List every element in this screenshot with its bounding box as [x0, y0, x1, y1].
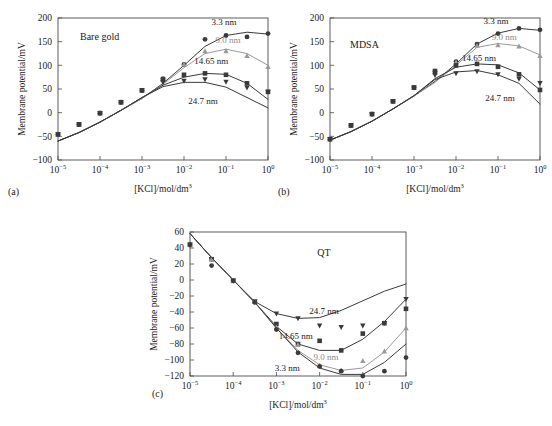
- panel-title: Bare gold: [80, 31, 119, 42]
- data-point: [516, 77, 521, 82]
- x-tick-label: 10−1: [490, 163, 506, 175]
- y-tick-label: −100: [164, 355, 184, 365]
- data-point: [403, 325, 408, 330]
- figure-container: −100−5005010015020010−510−410−310−210−11…: [0, 0, 552, 426]
- series-label: 24.7 nm: [188, 96, 218, 106]
- y-tick-label: −20: [169, 291, 184, 301]
- panel-b: −100−5005010015020010−510−410−310−210−11…: [272, 0, 552, 210]
- y-tick-label: 100: [310, 61, 325, 71]
- data-point: [296, 350, 301, 355]
- y-tick-label: −60: [169, 323, 184, 333]
- data-point: [339, 325, 344, 330]
- data-point: [202, 48, 207, 53]
- panel-c-letter: (c): [152, 388, 163, 399]
- panel-a-plot: −100−5005010015020010−510−410−310−210−11…: [0, 0, 290, 210]
- data-point: [339, 369, 344, 374]
- data-point: [245, 35, 250, 40]
- x-tick-label: 10−2: [448, 163, 464, 175]
- y-tick-label: −80: [169, 339, 184, 349]
- data-point: [224, 73, 229, 78]
- y-tick-label: 0: [179, 275, 184, 285]
- y-tick-label: −100: [304, 155, 324, 165]
- y-tick-label: 40: [175, 243, 185, 253]
- x-axis-title: [KCl]/mol/dm3: [269, 398, 327, 410]
- data-point: [474, 69, 479, 74]
- x-tick-label: 10−2: [176, 163, 192, 175]
- y-tick-label: −40: [169, 307, 184, 317]
- y-tick-label: 60: [175, 227, 185, 237]
- data-point: [360, 358, 365, 363]
- series-label: 14.65 nm: [462, 53, 496, 63]
- panel-c-plot: −120−100−80−60−40−20020406010−510−410−31…: [128, 212, 428, 426]
- data-point: [360, 374, 365, 379]
- data-point: [266, 31, 271, 36]
- data-point: [382, 348, 387, 353]
- x-tick-label: 10−4: [92, 163, 109, 175]
- data-point: [496, 64, 501, 69]
- data-point: [252, 300, 257, 305]
- data-point: [339, 348, 344, 353]
- data-point: [231, 278, 236, 283]
- y-tick-label: 50: [315, 84, 325, 94]
- data-point: [404, 307, 409, 312]
- data-point: [404, 355, 409, 360]
- y-axis-title: Membrane potential/mV: [149, 257, 159, 351]
- y-axis-title: Membrane potential/mV: [17, 42, 27, 136]
- data-point: [223, 80, 228, 85]
- series-label: 24.7 nm: [485, 93, 515, 103]
- y-tick-label: −50: [37, 132, 52, 142]
- y-tick-label: −100: [32, 155, 52, 165]
- series-label: 3.3 nm: [275, 363, 300, 373]
- x-axis-title: [KCl]/mol/dm3: [134, 182, 192, 194]
- data-point: [433, 69, 438, 74]
- series-label: 24.7 nm: [309, 306, 339, 316]
- data-point: [495, 42, 500, 47]
- x-tick-label: 10−4: [225, 379, 242, 391]
- y-tick-label: 150: [310, 37, 325, 47]
- data-point: [209, 263, 214, 268]
- data-point: [188, 242, 193, 247]
- panel-c: −120−100−80−60−40−20020406010−510−410−31…: [128, 212, 428, 426]
- panel-a-letter: (a): [8, 186, 19, 197]
- series-curve: [330, 44, 540, 141]
- data-point: [202, 77, 207, 82]
- y-axis-title: Membrane potential/mV: [289, 42, 299, 136]
- x-tick-label: 10−5: [50, 163, 66, 175]
- series-label: 3.3 nm: [483, 16, 508, 26]
- data-point: [203, 37, 208, 42]
- panel-title: QT: [317, 247, 330, 258]
- series-curve: [190, 234, 406, 371]
- panel-title: MDSA: [350, 39, 380, 50]
- series-curve: [190, 234, 406, 319]
- data-point: [317, 323, 322, 328]
- y-tick-label: 20: [175, 259, 185, 269]
- data-point: [454, 63, 459, 68]
- series-label: 3.3 nm: [211, 17, 236, 27]
- series-label: 9.0 nm: [216, 35, 241, 45]
- data-point: [382, 369, 387, 374]
- y-tick-label: 50: [43, 84, 53, 94]
- data-point: [203, 71, 208, 76]
- y-tick-label: 200: [38, 13, 53, 23]
- x-tick-label: 10−1: [218, 163, 234, 175]
- x-tick-label: 10−1: [355, 379, 371, 391]
- data-point: [182, 73, 187, 78]
- y-tick-label: −120: [164, 371, 184, 381]
- x-tick-label: 10−5: [322, 163, 338, 175]
- panel-b-letter: (b): [278, 186, 290, 197]
- x-tick-label: 10−3: [134, 163, 150, 175]
- data-point: [537, 81, 542, 86]
- y-tick-label: 0: [319, 108, 324, 118]
- data-point: [517, 26, 522, 31]
- data-point: [244, 85, 249, 90]
- x-tick-label: 100: [534, 163, 547, 175]
- data-point: [244, 53, 249, 58]
- y-tick-label: 100: [38, 61, 53, 71]
- panel-a: −100−5005010015020010−510−410−310−210−11…: [0, 0, 290, 210]
- series-label: 14.65 nm: [194, 56, 228, 66]
- y-tick-label: −50: [309, 132, 324, 142]
- data-point: [453, 71, 458, 76]
- series-curve: [58, 82, 268, 141]
- x-tick-label: 10−2: [311, 379, 327, 391]
- data-point: [274, 327, 279, 332]
